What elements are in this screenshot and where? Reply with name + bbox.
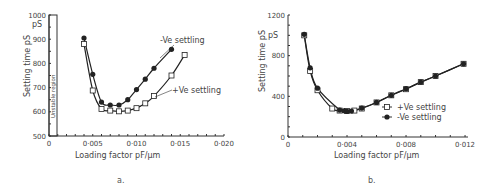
chart-a-legend-neg: -Ve settling	[160, 36, 205, 45]
legend-open-square-icon	[385, 105, 390, 110]
caption-a: a.	[117, 176, 124, 185]
open-square-marker-icon	[134, 106, 139, 111]
filled-circle-marker-icon	[389, 93, 394, 98]
filled-circle-marker-icon	[81, 35, 86, 40]
open-square-marker-icon	[330, 106, 335, 111]
filled-circle-marker-icon	[308, 65, 313, 70]
chart-b-legend-pos: +Ve settling	[397, 103, 446, 112]
legend-filled-circle-icon	[384, 114, 389, 119]
filled-circle-marker-icon	[344, 109, 349, 114]
y-tick-label: 600	[33, 108, 46, 116]
filled-circle-marker-icon	[302, 32, 307, 37]
x-tick-label: 0·020	[214, 140, 234, 148]
open-square-marker-icon	[90, 88, 95, 93]
filled-circle-marker-icon	[99, 100, 104, 105]
chart-a-xlabel: Loading factor pF/μm	[75, 151, 161, 160]
filled-circle-marker-icon	[151, 66, 156, 71]
filled-circle-marker-icon	[116, 102, 121, 107]
chart-a-y-unit: pS	[32, 20, 42, 29]
unstable-region-label: Unstable region	[50, 74, 57, 118]
chart-b-y-unit: pS	[268, 31, 278, 40]
chart-b-plot-area	[302, 32, 467, 114]
y-tick-label: 400	[272, 93, 285, 101]
open-square-marker-icon	[143, 101, 148, 106]
figure: 00·0050·0100·0150·0205006007008009001000…	[0, 0, 488, 191]
y-tick-label: 1000	[28, 12, 46, 20]
x-tick-label: 0	[286, 141, 290, 149]
filled-circle-marker-icon	[359, 105, 364, 110]
y-tick-label: 700	[33, 84, 46, 92]
x-tick-label: 0	[47, 140, 51, 148]
open-square-marker-icon	[182, 52, 187, 57]
chart-a: 00·0050·0100·0150·0205006007008009001000…	[23, 12, 234, 186]
chart-a-axes: 00·0050·0100·0150·0205006007008009001000	[28, 12, 234, 149]
chart-b-xlabel: Loading factor pF/μm	[334, 151, 420, 160]
open-square-marker-icon	[152, 94, 157, 99]
filled-circle-marker-icon	[108, 102, 113, 107]
filled-circle-marker-icon	[143, 77, 148, 82]
filled-circle-marker-icon	[349, 108, 354, 113]
y-tick-label: 900	[33, 36, 46, 44]
filled-circle-marker-icon	[374, 100, 379, 105]
chart-b-legend: +Ve settling -Ve settling	[382, 103, 446, 122]
y-tick-label: 800	[272, 52, 285, 60]
open-square-marker-icon	[82, 42, 87, 47]
filled-circle-marker-icon	[134, 87, 139, 92]
y-tick-label: 0	[281, 134, 285, 142]
series-line	[304, 34, 463, 112]
filled-circle-marker-icon	[337, 107, 342, 112]
filled-circle-marker-icon	[403, 86, 408, 91]
filled-circle-marker-icon	[125, 97, 130, 102]
x-tick-label: 0·005	[83, 140, 103, 148]
filled-circle-marker-icon	[315, 86, 320, 91]
chart-a-ylabel: Setting time pS	[23, 35, 32, 97]
y-tick-label: 1200	[267, 12, 285, 20]
open-square-marker-icon	[125, 108, 130, 113]
y-tick-label: 800	[33, 60, 46, 68]
open-square-marker-icon	[99, 106, 104, 111]
filled-circle-marker-icon	[433, 73, 438, 78]
open-square-marker-icon	[108, 108, 113, 113]
filled-circle-marker-icon	[418, 80, 423, 85]
x-tick-label: 0·004	[337, 141, 358, 149]
y-tick-label: 500	[33, 133, 46, 141]
caption-b: b.	[368, 176, 376, 185]
x-tick-label: 0·015	[170, 140, 190, 148]
x-tick-label: 0·010	[126, 140, 146, 148]
x-tick-label: 0·012	[455, 141, 475, 149]
x-tick-label: 0·008	[396, 141, 416, 149]
filled-circle-marker-icon	[461, 61, 466, 66]
chart-b-ylabel: Setting time pS	[258, 30, 267, 92]
chart-b: 00·0040·0080·01204008001200 pS Setting t…	[258, 12, 475, 186]
chart-a-legend-pos: +Ve settling	[172, 86, 221, 95]
chart-b-legend-neg: -Ve settling	[397, 113, 442, 122]
filled-circle-marker-icon	[90, 72, 95, 77]
chart-a-legend-pos-leader	[155, 90, 172, 97]
open-square-marker-icon	[117, 109, 122, 114]
open-square-marker-icon	[169, 73, 174, 78]
chart-b-axes: 00·0040·0080·01204008001200	[267, 12, 475, 150]
